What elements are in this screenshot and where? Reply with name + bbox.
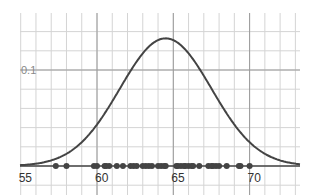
data-point bbox=[196, 163, 202, 169]
data-point bbox=[216, 163, 222, 169]
x-tick-label: 65 bbox=[171, 171, 185, 185]
data-point bbox=[237, 163, 243, 169]
y-tick-labels: 0.1 bbox=[21, 64, 36, 76]
data-point bbox=[53, 163, 59, 169]
data-point bbox=[190, 163, 196, 169]
data-point bbox=[114, 163, 120, 169]
normal-distribution-chart: 55606570 0.1 bbox=[0, 0, 313, 195]
x-tick-label: 70 bbox=[248, 171, 262, 185]
y-tick-label: 0.1 bbox=[21, 64, 36, 76]
data-point bbox=[94, 163, 100, 169]
density-curve bbox=[20, 38, 300, 165]
data-point bbox=[134, 163, 140, 169]
data-point bbox=[120, 163, 126, 169]
x-tick-labels: 55606570 bbox=[19, 171, 262, 185]
data-point bbox=[163, 163, 169, 169]
data-point bbox=[106, 163, 112, 169]
data-point bbox=[224, 163, 230, 169]
data-point bbox=[247, 163, 253, 169]
data-point bbox=[63, 163, 69, 169]
x-tick-label: 55 bbox=[19, 171, 33, 185]
x-tick-label: 60 bbox=[95, 171, 109, 185]
data-point bbox=[149, 163, 155, 169]
